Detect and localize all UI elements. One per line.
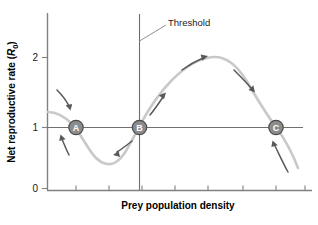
threshold-label: Threshold xyxy=(168,17,210,28)
equilibrium-point-a[interactable]: A xyxy=(69,120,83,134)
axes-group xyxy=(47,13,312,191)
y-axis-ticks: 0 1 2 xyxy=(32,52,47,194)
equilibrium-point-b[interactable]: B xyxy=(132,120,146,134)
arrow-descending-from-peak xyxy=(234,70,255,93)
y-tick-label-1: 1 xyxy=(32,122,38,133)
threshold-annotation: Threshold xyxy=(140,17,211,42)
point-a-label: A xyxy=(73,123,80,133)
arrow-toward-A-from-below xyxy=(59,135,69,156)
chart-svg: 0 1 2 Threshold xyxy=(0,0,318,225)
x-axis-ticks xyxy=(76,186,305,191)
y-tick-label-2: 2 xyxy=(32,52,38,63)
equilibrium-point-c[interactable]: C xyxy=(269,120,283,134)
chart-figure: 0 1 2 Threshold xyxy=(0,0,318,225)
y-tick-label-0: 0 xyxy=(32,183,38,194)
arrow-toward-A-from-left xyxy=(57,90,72,111)
y-axis-title-group: Net reproductive rate (R0) xyxy=(6,41,20,162)
reproductive-rate-curve xyxy=(48,57,298,168)
arrow-toward-C-from-below xyxy=(271,141,288,173)
point-c-label: C xyxy=(273,123,280,133)
arrow-rising-to-peak xyxy=(182,55,208,71)
y-axis-title: Net reproductive rate (R0) xyxy=(6,41,20,162)
threshold-leader-line xyxy=(140,25,167,41)
y-axis-title-main: Net reproductive rate ( xyxy=(6,55,17,162)
x-axis-title: Prey population density xyxy=(121,200,235,211)
point-b-label: B xyxy=(136,123,143,133)
y-axis-title-close: ) xyxy=(6,41,17,44)
